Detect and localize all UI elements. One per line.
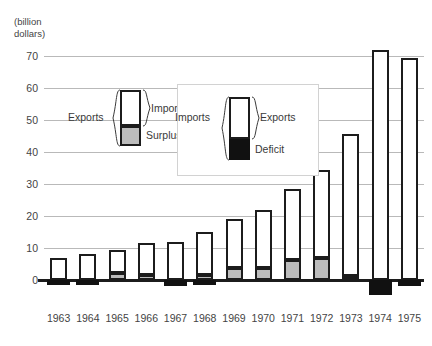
bar-1964[interactable] [79,40,96,296]
y-tick-label: 30 [4,178,38,190]
legend-deficit-exports-brace [251,96,260,140]
x-tick-label-1972: 1972 [310,312,333,324]
x-tick-label-1975: 1975 [398,312,421,324]
bar-segment-imports [342,134,359,276]
x-tick-label-1967: 1967 [164,312,187,324]
legend-surplus-exports-brace [112,89,121,147]
bar-segment-surplus [226,268,243,280]
bar-1965[interactable] [109,40,126,296]
y-tick-label: 20 [4,210,38,222]
x-tick-label-1969: 1969 [222,312,245,324]
bar-1973[interactable] [342,40,359,296]
legend-surplus-imports-brace [142,89,151,127]
x-tick-label-1963: 1963 [47,312,70,324]
x-tick-label-1964: 1964 [76,312,99,324]
bar-1975[interactable] [401,40,418,296]
bar-segment-imports [401,58,418,280]
chart-canvas: (billion dollars) 010203040506070 196319… [0,0,432,346]
x-tick-label-1968: 1968 [193,312,216,324]
legend-deficit-deficit-label: Deficit [255,143,284,155]
bar-segment-deficit [369,280,392,295]
bar-segment-imports [313,170,330,259]
x-tick-label-1966: 1966 [135,312,158,324]
legend-surplus: Exports Imports Surplus [92,88,180,164]
legend-deficit-imports-label: Imports [175,111,210,123]
bar-segment-imports [109,250,126,273]
y-axis-unit-line1: (billion [14,16,41,27]
x-tick-label-1973: 1973 [339,312,362,324]
bar-segment-surplus [255,268,272,280]
y-tick-label: 50 [4,114,38,126]
bar-segment-surplus [313,258,330,280]
bar-segment-imports [226,219,243,268]
bar-segment-deficit [76,280,99,285]
bar-segment-imports [372,50,389,280]
bar-segment-deficit [47,280,70,285]
bar-segment-imports [284,189,301,260]
x-tick-label-1974: 1974 [368,312,391,324]
y-axis-unit-line2: dollars) [14,28,45,39]
bar-segment-imports [50,258,67,280]
y-tick-label: 40 [4,146,38,158]
bar-1974[interactable] [372,40,389,296]
bar-segment-surplus [342,276,359,280]
bar-segment-imports [167,242,184,280]
bar-1963[interactable] [50,40,67,296]
legend-deficit: Imports Exports Deficit [177,84,319,176]
legend-surplus-imports-swatch [120,90,141,126]
y-tick-label: 0 [4,274,38,286]
x-tick-label-1965: 1965 [105,312,128,324]
legend-deficit-imports-brace [221,96,230,161]
bar-segment-surplus [138,275,155,280]
legend-surplus-exports-label: Exports [68,111,104,123]
x-tick-label-1971: 1971 [281,312,304,324]
y-tick-label: 70 [4,50,38,62]
bar-segment-deficit [164,280,187,286]
bar-segment-deficit [193,280,216,285]
bar-segment-surplus [284,260,301,280]
bar-segment-imports [196,232,213,275]
legend-deficit-exports-swatch [229,97,250,139]
x-tick-label-1970: 1970 [252,312,275,324]
legend-deficit-deficit-swatch [229,139,250,160]
y-axis-unit-label: (billion dollars) [14,16,45,39]
bar-segment-imports [79,254,96,280]
legend-deficit-exports-label: Exports [260,111,296,123]
y-tick-label: 60 [4,82,38,94]
bar-segment-imports [138,243,155,275]
y-tick-label: 10 [4,242,38,254]
bar-segment-imports [255,210,272,268]
legend-surplus-surplus-swatch [120,126,141,146]
bar-segment-surplus [109,273,126,280]
bar-1966[interactable] [138,40,155,296]
bar-segment-deficit [398,280,421,286]
